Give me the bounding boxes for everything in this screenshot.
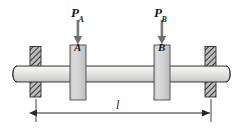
collar-a bbox=[70, 45, 86, 100]
shaft-loading-diagram: PA PB A B l bbox=[0, 0, 242, 130]
force-label-a: PA bbox=[71, 6, 84, 23]
length-label: l bbox=[116, 99, 119, 111]
diagram-canvas bbox=[0, 0, 242, 130]
force-label-b-subscript: B bbox=[161, 15, 166, 24]
dimension-length bbox=[36, 99, 211, 122]
collar-label-a: A bbox=[74, 42, 81, 53]
collar-label-b: B bbox=[158, 42, 165, 53]
shaft bbox=[13, 66, 230, 82]
force-label-b: PB bbox=[154, 6, 167, 23]
collar-b bbox=[154, 45, 170, 100]
force-label-a-subscript: A bbox=[78, 15, 83, 24]
